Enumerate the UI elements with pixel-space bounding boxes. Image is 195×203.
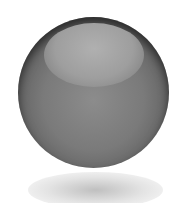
sphere-highlight bbox=[44, 23, 144, 87]
sphere-reflection bbox=[28, 172, 163, 203]
gray-sphere-orb bbox=[18, 17, 169, 168]
